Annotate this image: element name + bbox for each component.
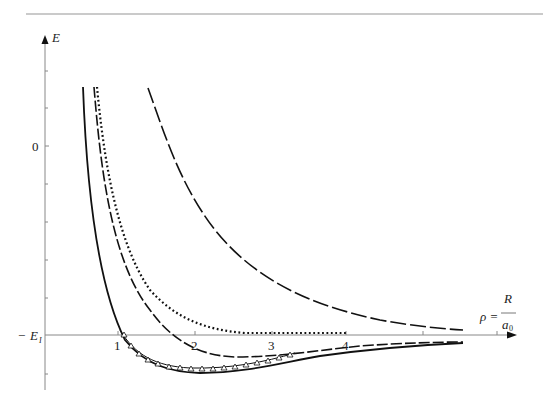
- x-axis-label-a-sub: 0: [509, 324, 513, 333]
- curves: [83, 87, 463, 373]
- curve-solid: [83, 87, 463, 373]
- x-tick-3: 3: [268, 338, 275, 353]
- y-tick-zero: 0: [32, 139, 39, 154]
- curve-medium-dash: [94, 87, 463, 357]
- curve-dotted: [97, 87, 346, 333]
- x-axis-label-a: a: [502, 317, 509, 332]
- x-tick-4: 4: [342, 338, 349, 353]
- x-tick-2: 2: [191, 338, 198, 353]
- x-tick-1: 1: [114, 338, 121, 353]
- x-axis-label-R: R: [503, 291, 512, 306]
- x-axis-label-rho: ρ =: [479, 309, 498, 324]
- curve-long-dash: [148, 88, 463, 330]
- y-axis-label: E: [51, 30, 60, 45]
- energy-curve-chart: E 0 − E I 1 2 3 4 ρ = R a 0: [0, 0, 543, 397]
- y-tick-minus: −: [18, 328, 25, 343]
- y-tick-ei: E: [29, 328, 38, 343]
- y-axis: E 0 − E I: [18, 30, 60, 390]
- y-tick-ei-sub: I: [38, 336, 42, 345]
